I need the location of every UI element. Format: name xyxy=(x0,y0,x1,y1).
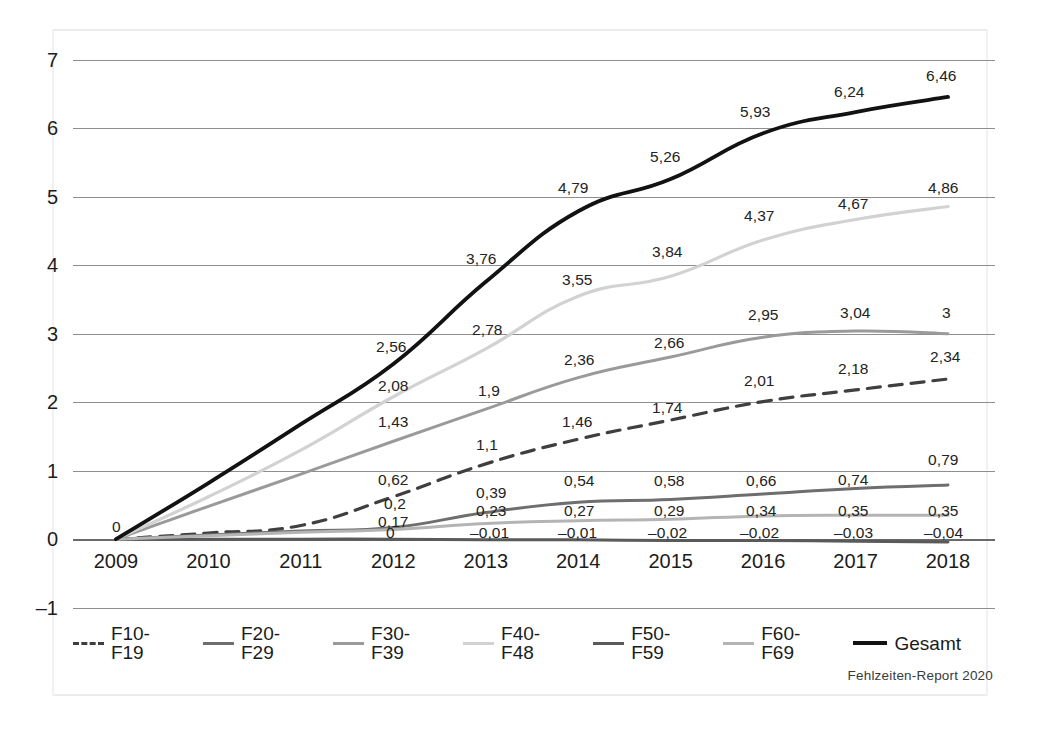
series-line-f20-f29 xyxy=(116,485,948,539)
data-label-f40-f48-2012: 2,08 xyxy=(378,378,409,394)
data-label-f60-f69-2014: 0,27 xyxy=(564,503,595,519)
legend-swatch-icon xyxy=(853,641,887,645)
legend-swatch-icon xyxy=(333,642,364,645)
legend-label: F20-F29 xyxy=(241,624,306,662)
data-label-f10-f19-2018: 2,34 xyxy=(930,349,961,365)
data-label-f20-f29-2016: 0,66 xyxy=(746,473,777,489)
data-label-f40-f48-2016: 4,37 xyxy=(744,208,775,224)
data-label-f50-f59-2015: –0,02 xyxy=(648,525,687,541)
data-label-gesamt-2017: 6,24 xyxy=(834,84,865,100)
legend-swatch-icon xyxy=(593,642,624,645)
data-label-f60-f69-2013: 0,23 xyxy=(476,503,507,519)
data-label-f30-f39-2012: 1,43 xyxy=(378,414,409,430)
source-note: Fehlzeiten-Report 2020 xyxy=(848,668,993,683)
data-label-f50-f59-2016: –0,02 xyxy=(740,525,779,541)
data-label-f40-f48-2013: 2,78 xyxy=(472,322,503,338)
series-line-f50-f59 xyxy=(116,539,948,542)
legend-item-f30-f39[interactable]: F30-F39 xyxy=(333,624,436,662)
legend-item-gesamt[interactable]: Gesamt xyxy=(853,634,961,653)
data-label-f30-f39-2013: 1,9 xyxy=(478,383,500,399)
data-label-f10-f19-2011: 0,2 xyxy=(384,496,406,512)
data-label-f40-f48-2015: 3,84 xyxy=(652,244,683,260)
data-label-f10-f19-2016: 2,01 xyxy=(744,373,775,389)
data-label-f50-f59-2012: 0 xyxy=(386,525,395,541)
legend-item-f50-f59[interactable]: F50-F59 xyxy=(593,624,696,662)
data-label-f30-f39-2016: 2,95 xyxy=(748,307,779,323)
data-label-f20-f29-2015: 0,58 xyxy=(654,473,685,489)
data-label-gesamt-2014: 4,79 xyxy=(558,180,589,196)
data-label-f40-f48-2018: 4,86 xyxy=(928,180,959,196)
data-label-f10-f19-2015: 1,74 xyxy=(652,400,683,416)
legend-label: F40-F48 xyxy=(501,624,566,662)
data-label-f50-f59-2013: –0,01 xyxy=(470,525,509,541)
legend-item-f10-f19[interactable]: F10-F19 xyxy=(73,624,176,662)
data-label-f20-f29-2018: 0,79 xyxy=(928,452,959,468)
data-label-f30-f39-2017: 3,04 xyxy=(840,305,871,321)
legend-label: Gesamt xyxy=(894,634,961,653)
legend-item-f60-f69[interactable]: F60-F69 xyxy=(723,624,826,662)
series-line-gesamt xyxy=(116,97,948,539)
legend-swatch-icon xyxy=(723,642,754,645)
data-label-gesamt-2013: 3,76 xyxy=(466,251,497,267)
data-label-f50-f59-2018: –0,04 xyxy=(924,525,963,541)
data-label-f40-f48-2017: 4,67 xyxy=(838,196,869,212)
data-label-f60-f69-2016: 0,34 xyxy=(746,503,777,519)
legend-label: F60-F69 xyxy=(761,624,826,662)
legend-swatch-icon xyxy=(463,642,494,645)
data-label-f20-f29-2014: 0,54 xyxy=(564,473,595,489)
legend-item-f40-f48[interactable]: F40-F48 xyxy=(463,624,566,662)
series-lines xyxy=(0,0,1038,730)
data-label-gesamt-2009: 0 xyxy=(112,519,121,535)
data-label-f60-f69-2017: 0,35 xyxy=(838,503,869,519)
data-label-gesamt-2012: 2,56 xyxy=(376,339,407,355)
legend-label: F30-F39 xyxy=(371,624,436,662)
data-label-gesamt-2015: 5,26 xyxy=(650,149,681,165)
legend-item-f20-f29[interactable]: F20-F29 xyxy=(203,624,306,662)
data-label-f30-f39-2014: 2,36 xyxy=(564,352,595,368)
data-label-f40-f48-2014: 3,55 xyxy=(562,272,593,288)
chart-legend: F10-F19F20-F29F30-F39F40-F48F50-F59F60-F… xyxy=(73,630,988,656)
legend-label: F10-F19 xyxy=(111,624,176,662)
data-label-f10-f19-2014: 1,46 xyxy=(562,414,593,430)
chart-page: 76543210–1 20092010201120122013201420152… xyxy=(0,0,1038,730)
data-label-f10-f19-2012: 0,62 xyxy=(378,472,409,488)
data-label-f20-f29-2013: 0,39 xyxy=(476,485,507,501)
legend-label: F50-F59 xyxy=(631,624,696,662)
legend-swatch-icon xyxy=(203,642,234,645)
data-label-f20-f29-2017: 0,74 xyxy=(838,472,869,488)
series-line-f60-f69 xyxy=(116,515,948,539)
data-label-f30-f39-2015: 2,66 xyxy=(654,335,685,351)
data-label-gesamt-2018: 6,46 xyxy=(926,68,957,84)
data-label-f60-f69-2018: 0,35 xyxy=(928,503,959,519)
legend-swatch-icon xyxy=(73,642,104,645)
data-label-f10-f19-2013: 1,1 xyxy=(476,437,498,453)
data-label-f30-f39-2018: 3 xyxy=(942,305,951,321)
data-label-gesamt-2016: 5,93 xyxy=(740,104,771,120)
data-label-f60-f69-2015: 0,29 xyxy=(654,503,685,519)
data-label-f50-f59-2017: –0,03 xyxy=(834,525,873,541)
data-label-f50-f59-2014: –0,01 xyxy=(558,525,597,541)
data-label-f10-f19-2017: 2,18 xyxy=(838,361,869,377)
